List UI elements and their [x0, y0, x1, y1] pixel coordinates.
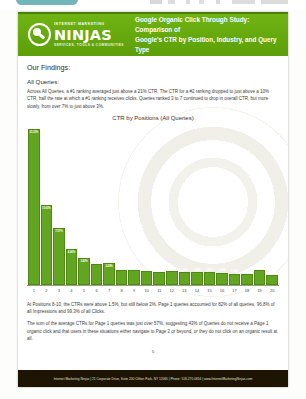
- chart-bar-label: 1.46%: [181, 269, 188, 272]
- chart-bar: 1.05%: [266, 275, 278, 285]
- chart-bar-label: 1.20%: [244, 271, 251, 274]
- intro-paragraph: Across All Queries, a #1 ranking average…: [27, 88, 279, 110]
- chart-bar-label: 2.56%: [93, 261, 100, 264]
- chart-bar-label: 2.69%: [105, 265, 112, 268]
- document-title-line2: Google's CTR by Position, Industry, and …: [135, 35, 280, 55]
- browser-chrome-strip: [0, 0, 306, 10]
- logo-subtext: SERVICES, TOOLS & COMMUNITIES: [54, 44, 124, 47]
- chart-bar: 2.69%: [103, 263, 115, 285]
- chart-container: CTR by Positions (All Queries) 21.12%10.…: [27, 115, 279, 301]
- chart-bar-label: 1.05%: [269, 272, 276, 275]
- chart-bar-label: 1.64%: [143, 267, 150, 270]
- chart-x-tick: 15: [204, 288, 216, 293]
- chart-bar-label: 1.45%: [206, 269, 213, 272]
- chart-plot-area: 21.12%10.65%7.57%4.66%3.42%2.56%2.69%1.7…: [27, 125, 279, 286]
- logo-text: INTERNET MARKETING NINJAS SERVICES, TOOL…: [54, 23, 124, 47]
- document-footer: Internet Marketing Ninjas | 21 Corporate…: [18, 370, 288, 387]
- chart-x-tick: 16: [216, 288, 228, 293]
- findings-heading: Our Findings:: [27, 63, 279, 72]
- chart-x-tick: 19: [254, 288, 266, 293]
- chart-bar: 21.12%: [28, 129, 40, 285]
- chart-bar: 1.74%: [128, 270, 140, 285]
- chart-bar-label: 1.60%: [168, 268, 175, 271]
- chart-bar-label: 1.74%: [118, 267, 125, 270]
- chart-x-tick: 5: [78, 288, 90, 293]
- chart-x-tick: 20: [266, 288, 278, 293]
- chrome-tab-pill[interactable]: [16, 0, 78, 5]
- chart-bar: 1.60%: [166, 271, 178, 285]
- document-page: INTERNET MARKETING NINJAS SERVICES, TOOL…: [18, 12, 288, 387]
- chart-x-tick: 14: [191, 288, 203, 293]
- chart-x-tick: 8: [116, 288, 128, 293]
- screenshot-page: INTERNET MARKETING NINJAS SERVICES, TOOL…: [0, 0, 306, 399]
- chart-bar: 1.44%: [191, 272, 203, 284]
- document-title-line1: Google Organic Click Through Study: Comp…: [135, 15, 280, 35]
- chart-bar: 1.55%: [153, 272, 165, 285]
- document-body: Our Findings: All Queries: Across All Qu…: [18, 56, 288, 354]
- chart-bar-label: 1.26%: [231, 270, 238, 273]
- chart-x-tick: 2: [41, 288, 53, 293]
- chart-bar-label: 1.44%: [193, 269, 200, 272]
- chart-x-tick: 3: [53, 288, 65, 293]
- footer-contact-text: Internet Marketing Ninjas | 21 Corporate…: [54, 377, 253, 381]
- chrome-toolbar-ghost: [150, 0, 300, 4]
- logo: INTERNET MARKETING NINJAS SERVICES, TOOL…: [18, 23, 127, 47]
- chart-x-axis: 1234567891011121314151617181920: [27, 288, 279, 293]
- chart-bar-label: 1.40%: [218, 269, 225, 272]
- chart-bar: 1.40%: [216, 273, 228, 285]
- section-heading: All Queries:: [27, 78, 279, 85]
- chart-bar: 1.20%: [241, 274, 253, 285]
- logo-pretext: INTERNET MARKETING: [54, 23, 124, 27]
- chart-bar-label: 1.74%: [131, 267, 138, 270]
- document-title: Google Organic Click Through Study: Comp…: [127, 15, 288, 55]
- chart-x-tick: 11: [153, 288, 165, 293]
- chart-bar: 4.66%: [66, 249, 78, 285]
- chart-bar: 1.26%: [229, 274, 241, 285]
- ninja-circle-icon: [28, 23, 51, 46]
- chart-x-tick: 4: [66, 288, 78, 293]
- chart-bar: 10.65%: [41, 205, 53, 284]
- chart-bar-label: 21.12%: [30, 131, 39, 134]
- chart-bar: 7.57%: [53, 228, 65, 285]
- chart-bar-label: 1.70%: [256, 267, 263, 270]
- chart-title: CTR by Positions (All Queries): [27, 115, 279, 121]
- after-paragraph-1: At Positions 8-10, the CTRs were above 1…: [27, 301, 279, 316]
- chart-bar: 1.70%: [254, 270, 266, 284]
- chart-bar: 2.56%: [91, 264, 103, 285]
- page-number: 5: [27, 349, 279, 354]
- chart-x-tick: 13: [179, 288, 191, 293]
- chart-bar-label: 7.57%: [55, 230, 62, 233]
- chart-bar-label: 10.65%: [42, 207, 51, 210]
- chart-x-tick: 17: [229, 288, 241, 293]
- chart-x-tick: 6: [91, 288, 103, 293]
- document-header-band: INTERNET MARKETING NINJAS SERVICES, TOOL…: [18, 12, 288, 56]
- chart-x-tick: 7: [103, 288, 115, 293]
- chart-x-tick: 10: [141, 288, 153, 293]
- chart-bar: 1.64%: [141, 271, 153, 285]
- chart-x-tick: 1: [28, 288, 40, 293]
- after-paragraph-2: The sum of the average CTRs for Page 1 q…: [27, 320, 279, 342]
- chart-bar-label: 4.66%: [68, 251, 75, 254]
- chart-x-tick: 12: [166, 288, 178, 293]
- chart-bar: 1.46%: [179, 272, 191, 285]
- logo-wordmark: NINJAS: [54, 28, 124, 43]
- chart-bar-label: 3.42%: [80, 260, 87, 263]
- chart-bar: 3.42%: [78, 258, 90, 285]
- chart-bar-label: 1.55%: [156, 268, 163, 271]
- chart-x-tick: 9: [128, 288, 140, 293]
- chart-bar: 1.45%: [204, 272, 216, 285]
- chart-x-tick: 18: [241, 288, 253, 293]
- chart-bar: 1.74%: [116, 270, 128, 285]
